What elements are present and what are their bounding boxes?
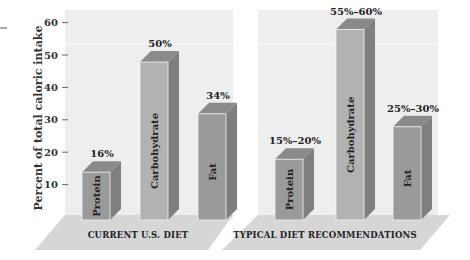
y-tick-label: 10 — [44, 179, 58, 190]
bar-value-label: 50% — [148, 38, 172, 49]
bar-value-label: 16% — [90, 148, 114, 159]
y-tick-label: 20 — [44, 147, 58, 158]
bar-value-label: 25%–30% — [387, 103, 439, 114]
y-tick-label: 50 — [44, 50, 58, 61]
bar-side — [421, 116, 432, 220]
bar-side — [303, 148, 314, 220]
bar-category-label: Carbohydrate — [149, 113, 160, 189]
bar-carbohydrate: Carbohydrate — [336, 19, 375, 220]
y-axis: 102030405060 — [44, 17, 68, 190]
y-axis-title: Percent of total caloric intake — [32, 26, 45, 211]
panel-label: CURRENT U.S. DIET — [88, 230, 189, 240]
y-tick-label: 30 — [44, 114, 58, 125]
bar-fat: Fat — [198, 103, 237, 220]
bar-value-label: 15%–20% — [269, 135, 321, 146]
bar-category-label: Protein — [284, 168, 295, 210]
bar-category-label: Fat — [402, 169, 413, 187]
bar-protein: Protein — [275, 148, 314, 220]
bar-carbohydrate: Carbohydrate — [140, 51, 179, 220]
bar-category-label: Protein — [91, 175, 102, 217]
bar-category-label: Fat — [207, 163, 218, 181]
bar-value-label: 34% — [206, 90, 230, 101]
bar-side — [168, 51, 179, 220]
bar-category-label: Carbohydrate — [345, 97, 356, 173]
bar-fat: Fat — [393, 116, 432, 220]
y-tick-label: 60 — [44, 17, 58, 28]
bar-value-label: 55%–60% — [330, 6, 382, 17]
panel-label: TYPICAL DIET RECOMMENDATIONS — [233, 230, 417, 240]
bar-protein: Protein — [82, 161, 121, 220]
bar-side — [364, 19, 375, 220]
y-tick-label: 40 — [44, 82, 58, 93]
bar-side — [226, 103, 237, 220]
diet-chart: 102030405060 ProteinCarbohydrateFatProte… — [0, 0, 470, 260]
